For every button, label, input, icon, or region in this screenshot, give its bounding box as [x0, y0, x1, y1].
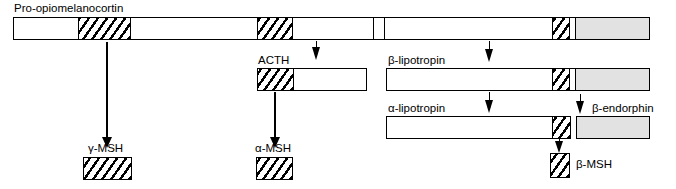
beta-msh-box	[550, 153, 570, 178]
beta-lipotropin-bar	[386, 68, 650, 91]
alpha-msh-label: α-MSH	[255, 142, 291, 155]
gamma-msh-label: γ-MSH	[88, 142, 123, 155]
pomc-divider-1	[373, 18, 374, 39]
pomc-alpha-msh-segment	[257, 18, 293, 39]
beta-lipotropin-beta-endorphin-segment	[575, 69, 649, 90]
beta-lipotropin-beta-msh-segment	[552, 69, 570, 90]
pomc-bar	[13, 17, 650, 40]
alpha-lipotropin-beta-msh-segment	[552, 117, 570, 138]
acth-bar	[257, 68, 367, 91]
beta-lipotropin-label: β-lipotropin	[388, 54, 445, 67]
pomc-label: Pro-opiomelanocortin	[14, 2, 123, 15]
gamma-msh-box	[83, 157, 132, 180]
alpha-msh-box	[256, 157, 293, 180]
pomc-processing-diagram: Pro-opiomelanocortin ACTH β-lipotropin	[0, 0, 676, 189]
pomc-beta-endorphin-segment	[575, 18, 649, 39]
acth-alpha-msh-segment	[258, 69, 294, 90]
arrow-beta-lipotropin-to-beta-endorphin	[575, 94, 586, 114]
arrow-pomc-to-gamma-msh	[101, 42, 113, 148]
arrow-pomc-to-acth	[311, 41, 322, 60]
pomc-gamma-msh-segment	[78, 18, 131, 39]
acth-label: ACTH	[258, 54, 289, 67]
pomc-beta-msh-segment	[552, 18, 570, 39]
alpha-lipotropin-bar	[386, 116, 571, 139]
alpha-lipotropin-label: α-lipotropin	[388, 102, 445, 115]
arrow-beta-lipotropin-to-alpha-lipotropin	[484, 92, 495, 113]
pomc-divider-2	[384, 18, 385, 39]
beta-msh-label: β-MSH	[576, 158, 612, 171]
beta-endorphin-box	[576, 116, 650, 139]
arrow-acth-to-alpha-msh	[269, 92, 281, 148]
arrow-alpha-lipotropin-to-beta-msh	[554, 139, 565, 153]
arrow-pomc-to-beta-lipotropin	[484, 41, 495, 62]
beta-endorphin-label: β-endorphin	[592, 102, 654, 115]
